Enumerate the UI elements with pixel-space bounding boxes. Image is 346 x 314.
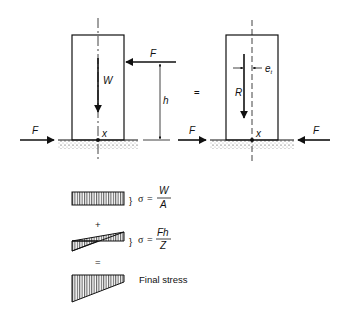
eccentricity-label: et bbox=[265, 63, 273, 75]
equals-sign-stress: = bbox=[95, 256, 101, 267]
bending-denominator: Z bbox=[159, 240, 167, 251]
uniform-stress-block bbox=[72, 192, 124, 205]
final-stress-block bbox=[72, 275, 124, 302]
left-block-diagram: F W h F x bbox=[20, 18, 176, 160]
left-point-x bbox=[96, 138, 100, 142]
resultant-label: R bbox=[235, 87, 242, 98]
final-stress-label: Final stress bbox=[139, 274, 188, 285]
right-left-force-label: F bbox=[189, 125, 196, 136]
stress-diagram: F W h F x = et R F F x } σ = W A + bbox=[0, 0, 346, 314]
brace-bending: } bbox=[129, 236, 132, 247]
bending-stress-top bbox=[72, 232, 124, 241]
right-point-x bbox=[250, 138, 254, 142]
height-label: h bbox=[163, 95, 169, 106]
top-force-label: F bbox=[150, 48, 157, 59]
weight-label: W bbox=[103, 75, 114, 86]
right-point-label: x bbox=[255, 128, 262, 139]
bending-sigma: σ bbox=[138, 234, 144, 245]
uniform-numerator: W bbox=[159, 185, 170, 196]
plus-sign: + bbox=[95, 219, 101, 230]
uniform-denominator: A bbox=[159, 199, 167, 210]
right-right-force-label: F bbox=[313, 125, 320, 136]
left-point-label: x bbox=[101, 128, 108, 139]
equals-sign: = bbox=[194, 87, 200, 98]
bending-eq: = bbox=[147, 234, 153, 245]
uniform-sigma: σ bbox=[138, 193, 144, 204]
uniform-eq: = bbox=[147, 193, 153, 204]
brace-uniform: } bbox=[129, 195, 132, 206]
right-block-diagram: et R F F x bbox=[178, 20, 330, 162]
left-base-force-label: F bbox=[32, 125, 39, 136]
bending-numerator: Fh bbox=[157, 227, 169, 238]
stress-diagrams: } σ = W A + } σ = Fh Z = Final stress bbox=[72, 185, 188, 302]
